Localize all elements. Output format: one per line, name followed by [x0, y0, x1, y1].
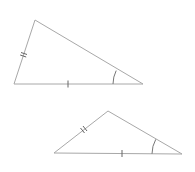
- triangle-2: [54, 111, 182, 157]
- triangle-1-angle-arc: [113, 71, 116, 84]
- triangle-1-outline: [14, 20, 143, 84]
- triangle-2-outline: [54, 111, 182, 154]
- diagram-canvas: [0, 0, 195, 172]
- triangle-2-angle-arc: [152, 139, 156, 154]
- triangle-1: [14, 20, 143, 88]
